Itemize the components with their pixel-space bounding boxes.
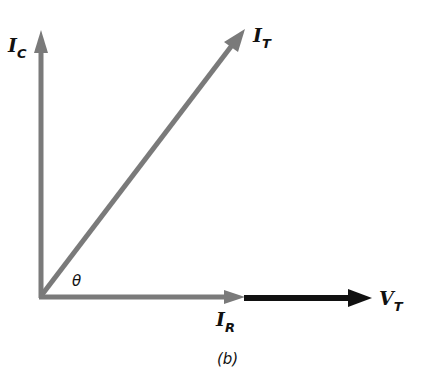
figure-caption: (b) (217, 350, 238, 368)
phasor-vt-arrow (244, 289, 372, 307)
label-vt: VT (379, 289, 403, 308)
label-ir: IR (216, 310, 235, 329)
label-ic: IC (8, 36, 26, 55)
phasor-ic-arrow (34, 30, 48, 298)
phasor-it-arrow (41, 29, 245, 296)
phasor-diagram: IC IT IR VT θ (b) (0, 0, 426, 391)
angle-theta-label: θ (72, 272, 81, 290)
label-it: IT (253, 26, 271, 45)
phasor-ir-arrow (39, 290, 245, 304)
phasor-arrows (0, 0, 426, 391)
